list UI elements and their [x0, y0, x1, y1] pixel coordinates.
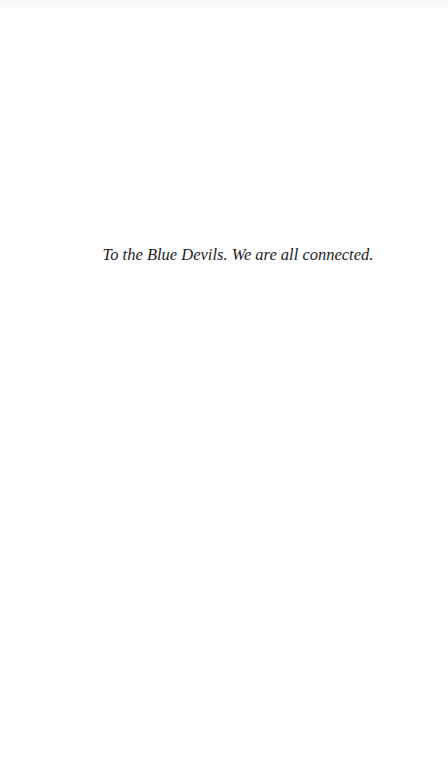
- book-page: To the Blue Devils. We are all connected…: [0, 0, 448, 768]
- scan-bleed-through: [0, 0, 448, 14]
- dedication-text: To the Blue Devils. We are all connected…: [0, 244, 448, 266]
